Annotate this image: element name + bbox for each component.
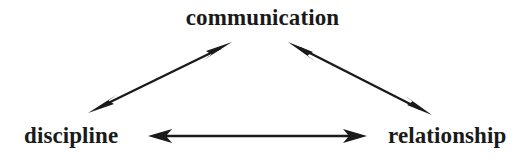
edge-shaft-discipline-communication	[100, 48, 221, 107]
edge-communication-relationship	[288, 42, 432, 115]
edge-discipline-relationship	[148, 129, 367, 143]
node-label-discipline: discipline	[24, 124, 118, 147]
arrowhead-toward-communication-left	[203, 42, 232, 61]
arrowhead-toward-discipline	[88, 95, 117, 114]
arrowhead-toward-relationship	[404, 95, 432, 115]
arrowhead-toward-communication-right	[288, 42, 316, 62]
relationship-triangle-diagram: communication discipline relationship	[0, 0, 525, 164]
node-label-communication: communication	[0, 6, 525, 29]
edge-shaft-communication-relationship	[300, 48, 420, 109]
node-label-relationship: relationship	[388, 124, 506, 147]
edge-discipline-communication	[88, 42, 232, 113]
